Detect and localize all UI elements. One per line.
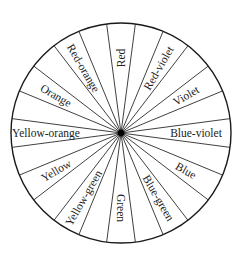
segment-label-red: Red [115,48,127,67]
segment-label-green: Green [115,194,127,222]
color-wheel-diagram: RedRed-violetVioletBlue-violetBlueBlue-g… [0,0,242,254]
center-hub [118,130,124,136]
segment-label-blue-violet: Blue-violet [170,127,223,139]
segment-label-yellow-orange: Yellow-orange [12,127,80,140]
